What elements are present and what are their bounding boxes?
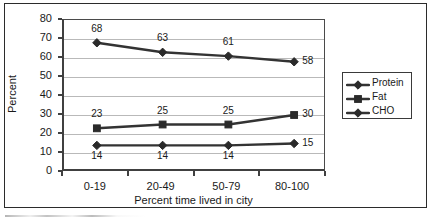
x-axis-tick-label: 20-49: [131, 180, 191, 192]
x-axis-tick-label: 50-79: [196, 180, 256, 192]
legend-marker-diamond-icon: [346, 77, 370, 89]
x-axis-title: Percent time lived in city: [62, 194, 325, 206]
legend-label: Protein: [372, 78, 404, 88]
legend-item-protein[interactable]: Protein: [346, 76, 404, 90]
y-axis-tick-label: 70: [26, 32, 52, 43]
x-axis-tick-label: 0-19: [65, 180, 125, 192]
legend-label: Fat: [372, 92, 386, 102]
data-label-fat-1: 25: [149, 106, 177, 116]
x-axis-tick: [127, 171, 129, 176]
data-label-cho-2: 61: [214, 37, 242, 47]
y-axis-tick-label: 50: [26, 70, 52, 81]
data-point-cho-2: [224, 52, 232, 60]
data-point-fat-1: [159, 121, 166, 128]
y-axis-tick-label: 60: [26, 51, 52, 62]
data-label-fat-2: 25: [214, 106, 242, 116]
plot-area: 141414152325253068636158: [62, 19, 325, 171]
data-point-fat-3: [291, 112, 298, 119]
data-label-cho-3: 58: [302, 56, 313, 66]
data-label-protein-2: 14: [214, 151, 242, 161]
data-label-protein-0: 14: [83, 151, 111, 161]
data-point-cho-1: [158, 48, 166, 56]
data-label-fat-3: 30: [302, 109, 313, 119]
y-axis-title: Percent: [6, 67, 18, 121]
series-line-protein: [97, 144, 294, 146]
y-axis-tick-label: 20: [26, 127, 52, 138]
chart-figure: Percent 01020304050607080 14141415232525…: [0, 0, 432, 222]
chart-legend: ProteinFatCHO: [342, 72, 412, 119]
data-point-protein-0: [93, 141, 101, 149]
legend-label: CHO: [372, 106, 394, 116]
series-layer: [64, 20, 327, 172]
data-point-protein-1: [158, 141, 166, 149]
legend-item-fat[interactable]: Fat: [346, 90, 386, 104]
data-point-cho-3: [290, 58, 298, 66]
y-axis-tick-label: 80: [26, 13, 52, 24]
legend-marker-square-icon: [346, 91, 370, 103]
series-line-cho: [97, 43, 294, 62]
data-point-cho-0: [93, 39, 101, 47]
x-axis-tick: [258, 171, 260, 176]
x-axis-tick: [61, 171, 63, 176]
legend-item-cho[interactable]: CHO: [346, 104, 394, 118]
data-point-protein-2: [224, 141, 232, 149]
data-label-cho-0: 68: [83, 24, 111, 34]
data-point-protein-3: [290, 139, 298, 147]
x-axis-tick: [324, 171, 326, 176]
scan-artifact: [5, 215, 145, 217]
x-axis-tick: [193, 171, 195, 176]
data-point-fat-0: [93, 125, 100, 132]
y-axis-tick-label: 0: [26, 165, 52, 176]
data-label-cho-1: 63: [149, 33, 177, 43]
y-axis-tick-label: 30: [26, 108, 52, 119]
data-label-protein-1: 14: [149, 151, 177, 161]
y-axis-tick-label: 10: [26, 146, 52, 157]
data-label-fat-0: 23: [83, 109, 111, 119]
series-line-fat: [97, 115, 294, 128]
data-point-fat-2: [225, 121, 232, 128]
y-axis-tick-label: 40: [26, 89, 52, 100]
x-axis-tick-label: 80-100: [262, 180, 322, 192]
data-label-protein-3: 15: [302, 138, 313, 148]
legend-marker-diamond-icon: [346, 105, 370, 117]
